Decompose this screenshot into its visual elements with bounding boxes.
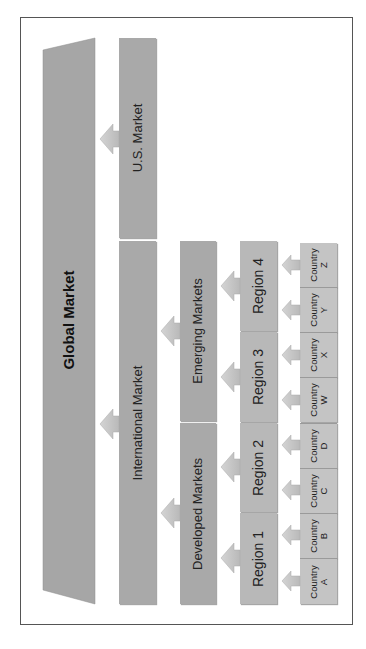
country-y-label: Country [307, 293, 318, 326]
country-z-letter: Z [318, 262, 329, 268]
international-market-label: International Market [130, 365, 144, 480]
country-d-label: Country [307, 429, 318, 462]
us-market-label: U.S. Market [130, 104, 144, 173]
country-c-box: CountryC [300, 468, 337, 513]
region-2-label: Region 2 [251, 439, 266, 495]
emerging-markets-label: Emerging Markets [191, 278, 205, 383]
global-market-box: Global Market [43, 50, 95, 590]
country-d-box: CountryD [300, 423, 337, 468]
country-y-box: CountryY [300, 287, 337, 332]
country-w-label: Country [307, 383, 318, 416]
country-x-label: Country [307, 338, 318, 371]
country-a-label: Country [307, 565, 318, 598]
region-4-box: Region 4 [240, 241, 277, 331]
region-3-box: Region 3 [240, 332, 277, 422]
us-market-box: U.S. Market [119, 38, 156, 238]
global-market-label: Global Market [61, 270, 78, 369]
developed-markets-box: Developed Markets [180, 423, 216, 604]
country-x-box: CountryX [300, 332, 337, 377]
country-x-letter: X [318, 352, 329, 358]
international-market-box: International Market [119, 241, 156, 604]
country-d-letter: D [318, 443, 329, 450]
country-c-letter: C [318, 488, 329, 495]
region-1-label: Region 1 [251, 530, 266, 586]
country-z-label: Country [307, 248, 318, 281]
country-c-label: Country [307, 474, 318, 507]
country-z-box: CountryZ [300, 243, 337, 287]
country-a-box: CountryA [300, 558, 337, 604]
country-b-box: CountryB [300, 513, 337, 558]
country-y-letter: Y [318, 307, 329, 313]
country-a-letter: A [318, 578, 329, 584]
region-2-box: Region 2 [240, 423, 277, 512]
region-1-box: Region 1 [240, 513, 277, 604]
country-b-label: Country [307, 519, 318, 552]
region-4-label: Region 4 [251, 258, 266, 314]
region-3-label: Region 3 [251, 349, 266, 405]
developed-markets-label: Developed Markets [191, 458, 205, 570]
country-w-box: CountryW [300, 377, 337, 422]
country-b-letter: B [318, 533, 329, 539]
country-w-letter: W [318, 396, 329, 405]
emerging-markets-box: Emerging Markets [180, 241, 216, 421]
